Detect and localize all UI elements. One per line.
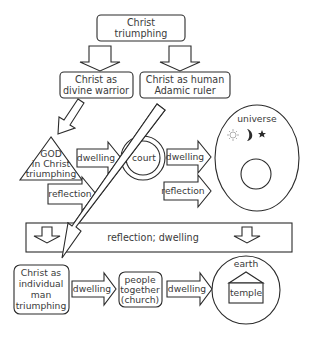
node-label: universe [237, 113, 277, 124]
node-label: triumphing [16, 300, 67, 311]
node-label: earth [234, 258, 259, 269]
band-label: reflection; dwelling [107, 232, 199, 243]
temple-label: temple [230, 287, 263, 298]
arrow-dwelling-people-to-earth: dwelling [167, 273, 212, 305]
node-label: Christ as [75, 74, 117, 85]
node-earth: earth temple [212, 256, 280, 324]
node-christ-divine-warrior: Christ as divine warrior [60, 72, 133, 98]
node-label: triumphing [115, 28, 168, 39]
arrow-label: dwelling [166, 151, 204, 162]
node-god-in-christ: GOD in Christ triumphing [20, 137, 82, 180]
node-people-together: people together (church) [119, 272, 162, 307]
node-label: triumphing [26, 168, 77, 179]
arrow-reflection-court: reflection [161, 175, 211, 207]
node-label: divine warrior [63, 85, 129, 96]
node-christ-adamic-ruler: Christ as human Adamic ruler [140, 72, 230, 98]
arrow-label: dwelling [77, 152, 115, 163]
arrow-dwelling-court-to-universe: dwelling [166, 141, 211, 173]
node-universe: universe [215, 105, 299, 211]
node-christ-triumphing: Christ triumphing [97, 15, 185, 41]
arrow-down-left [80, 46, 120, 71]
node-label: man [31, 289, 52, 300]
node-label: Christ [127, 17, 155, 28]
node-label: court [132, 152, 156, 163]
arrow-dwelling-man-to-people: dwelling [72, 273, 116, 305]
node-label: individual [19, 278, 64, 289]
arrow-down-right [160, 46, 200, 71]
node-label: Adamic ruler [154, 85, 215, 96]
node-label: Christ as [21, 267, 62, 278]
arrow-label: reflection [48, 188, 91, 199]
node-christ-individual-man: Christ as individual man triumphing [14, 265, 69, 314]
arrow-label: dwelling [168, 283, 206, 294]
node-label: Christ as human [146, 74, 225, 85]
diagram-canvas: Christ triumphing Christ as divine warri… [0, 0, 311, 337]
arrow-label: dwelling [73, 283, 111, 294]
arrow-warrior-to-god [58, 99, 84, 134]
arrow-label: reflection [161, 185, 204, 196]
node-label: (church) [121, 294, 159, 305]
